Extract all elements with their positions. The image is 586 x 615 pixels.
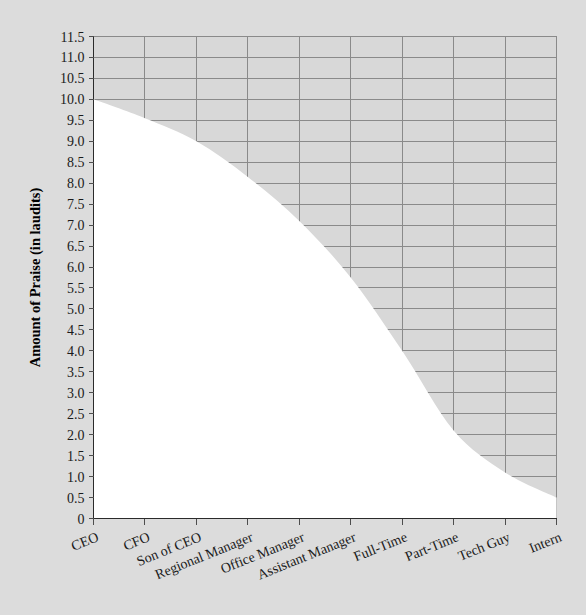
y-axis-tick-label: 5.5: [67, 281, 85, 296]
y-axis-tick-label: 3.0: [67, 386, 85, 401]
y-axis-tick-label: 4.5: [67, 323, 85, 338]
y-axis-tick-label: 9.0: [67, 134, 85, 149]
y-axis-tick-label: 10.0: [60, 92, 85, 107]
y-axis-tick-label: 0.5: [67, 491, 85, 506]
y-axis-tick-label: 5.0: [67, 302, 85, 317]
y-axis-tick-label: 8.5: [67, 155, 85, 170]
y-axis-tick-label: 1.5: [67, 449, 85, 464]
y-axis-tick-label: 7.5: [67, 197, 85, 212]
y-axis-title: Amount of Praise (in laudits): [27, 188, 44, 368]
y-axis-title-text: Amount of Praise (in laudits): [27, 188, 44, 368]
y-axis-tick-label: 9.5: [67, 113, 85, 128]
y-axis-tick-label: 1.0: [67, 470, 85, 485]
y-axis-tick-label: 6.5: [67, 239, 85, 254]
y-axis-tick-label: 4.0: [67, 344, 85, 359]
y-axis-tick-label: 3.5: [67, 365, 85, 380]
chart-container: 00.51.01.52.02.53.03.54.04.55.05.56.06.5…: [0, 0, 586, 615]
y-axis-tick-label: 11.5: [61, 30, 85, 45]
y-axis-tick-label: 2.0: [67, 428, 85, 443]
y-axis-tick-label: 2.5: [67, 407, 85, 422]
y-axis-tick-label: 11.0: [61, 50, 85, 65]
y-axis-tick-label: 0: [78, 512, 85, 527]
y-axis-tick-label: 10.5: [60, 71, 85, 86]
y-axis-tick-label: 7.0: [67, 218, 85, 233]
area-chart: 00.51.01.52.02.53.03.54.04.55.05.56.06.5…: [0, 0, 586, 615]
y-axis-tick-label: 8.0: [67, 176, 85, 191]
y-axis-tick-label: 6.0: [67, 260, 85, 275]
